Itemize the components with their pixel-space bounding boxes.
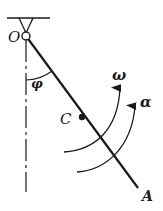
label-omega: ω [112, 66, 126, 84]
center-C-dot [79, 114, 85, 120]
rod-OA [26, 36, 138, 188]
label-alpha: α [140, 93, 152, 111]
label-A: A [140, 188, 153, 204]
pivot-support-triangle [19, 18, 33, 33]
label-C: C [60, 110, 72, 128]
label-O: O [8, 28, 20, 46]
label-phi: φ [31, 76, 43, 91]
pivot-O-circle [22, 32, 30, 40]
pendulum-diagram: O φ C A ω α [0, 0, 163, 211]
